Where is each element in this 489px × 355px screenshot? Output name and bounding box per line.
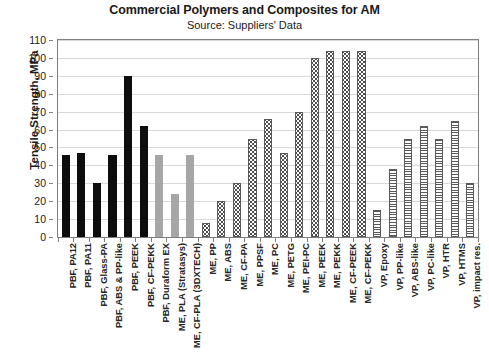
bar-slot <box>369 40 385 237</box>
chart-subtitle: Source: Suppliers' Data <box>0 19 489 31</box>
bar[interactable] <box>357 51 365 237</box>
y-tick-mark <box>49 40 53 41</box>
x-tick-mark <box>369 238 385 242</box>
y-tick-label: 70 <box>2 107 46 117</box>
bar-slot <box>105 40 121 237</box>
bar-slot <box>167 40 183 237</box>
bar-slot <box>260 40 276 237</box>
bar[interactable] <box>264 119 272 237</box>
bar-slot <box>136 40 152 237</box>
bar[interactable] <box>326 51 334 237</box>
bar-slot <box>307 40 323 237</box>
bar[interactable] <box>248 139 256 238</box>
y-tick-label: 20 <box>2 196 46 206</box>
bar-slot <box>400 40 416 237</box>
bar-slot <box>229 40 245 237</box>
bar[interactable] <box>435 139 443 238</box>
bar[interactable] <box>155 155 163 237</box>
bar[interactable] <box>186 155 194 237</box>
x-label-slot: PBF, ABS & PP-like <box>105 243 121 355</box>
bar[interactable] <box>202 223 210 237</box>
bar[interactable] <box>171 194 179 237</box>
bar-slot <box>151 40 167 237</box>
bar-slot <box>432 40 448 237</box>
bar[interactable] <box>373 210 381 237</box>
x-label-slot: ME, PP <box>198 243 214 355</box>
bar[interactable] <box>93 183 101 237</box>
bar[interactable] <box>77 153 85 237</box>
bar-slot <box>447 40 463 237</box>
x-tick-mark <box>74 238 90 242</box>
y-tick-label: 40 <box>2 160 46 170</box>
bar-slot <box>463 40 479 237</box>
bar[interactable] <box>108 155 116 237</box>
x-tick-mark <box>183 238 199 242</box>
x-tick-mark <box>136 238 152 242</box>
bar-slot <box>385 40 401 237</box>
x-tick-mark <box>432 238 448 242</box>
x-tick-mark <box>167 238 183 242</box>
x-tick-mark <box>463 238 479 242</box>
x-label-slot: PBF, PA11 <box>74 243 90 355</box>
x-label-slot: PBF, Glass-PA <box>89 243 105 355</box>
bar-slot <box>214 40 230 237</box>
x-axis-tick-labels: PBF, PA12PBF, PA11PBF, Glass-PAPBF, ABS … <box>58 243 478 355</box>
x-label-slot: PBF, Duraform EX <box>151 243 167 355</box>
bar-slot <box>338 40 354 237</box>
bar[interactable] <box>62 155 70 237</box>
y-tick-label: 60 <box>2 125 46 135</box>
bar[interactable] <box>217 201 225 237</box>
x-label-slot: PBF, PA12 <box>58 243 74 355</box>
x-tick-mark <box>58 238 74 242</box>
y-tick-mark <box>49 201 53 202</box>
x-tick-mark <box>198 238 214 242</box>
bar[interactable] <box>389 169 397 237</box>
x-tick-mark <box>400 238 416 242</box>
bar[interactable] <box>124 76 132 237</box>
x-label-slot: ME, PPSF <box>245 243 261 355</box>
bar[interactable] <box>140 126 148 237</box>
bar-chart: Commercial Polymers and Composites for A… <box>0 0 489 355</box>
x-tick-mark <box>291 238 307 242</box>
bar[interactable] <box>404 139 412 238</box>
y-tick-label: 100 <box>2 53 46 63</box>
bar[interactable] <box>420 126 428 237</box>
x-label-slot: ME, CF-PEEK <box>338 243 354 355</box>
x-label-slot: VP, HTR <box>432 243 448 355</box>
bar[interactable] <box>342 51 350 237</box>
x-tick-mark <box>323 238 339 242</box>
bar[interactable] <box>311 58 319 237</box>
bar[interactable] <box>451 121 459 237</box>
x-tick-mark <box>214 238 230 242</box>
x-label-slot: ME, PEI-PC <box>291 243 307 355</box>
bar-series <box>58 40 478 237</box>
x-tick-mark <box>120 238 136 242</box>
x-tick-mark <box>354 238 370 242</box>
x-tick-mark <box>105 238 121 242</box>
x-label-slot: ME, PEKK <box>323 243 339 355</box>
x-tick-mark <box>447 238 463 242</box>
y-tick-mark <box>49 219 53 220</box>
chart-title: Commercial Polymers and Composites for A… <box>0 3 489 17</box>
bar-slot <box>89 40 105 237</box>
x-label-slot: VP, PC-like <box>416 243 432 355</box>
x-tick-mark <box>385 238 401 242</box>
bar[interactable] <box>280 153 288 237</box>
bar[interactable] <box>233 183 241 237</box>
bar-slot <box>120 40 136 237</box>
x-label-slot: ME, PC <box>260 243 276 355</box>
bar-slot <box>276 40 292 237</box>
x-label-slot: VP, PP-like <box>385 243 401 355</box>
x-label-slot: ME, CF-PEKK <box>354 243 370 355</box>
x-tick-mark <box>416 238 432 242</box>
x-label-slot: VP, ABS-like <box>400 243 416 355</box>
x-axis-tick-marks <box>58 238 478 242</box>
bar-slot <box>416 40 432 237</box>
x-tick-mark <box>89 238 105 242</box>
bar[interactable] <box>466 183 474 237</box>
x-label-slot: ME, PETG <box>276 243 292 355</box>
x-label-slot: ME, PEEK <box>307 243 323 355</box>
bar[interactable] <box>295 112 303 237</box>
y-tick-label: 80 <box>2 89 46 99</box>
x-label-slot: VP, Epoxy <box>369 243 385 355</box>
